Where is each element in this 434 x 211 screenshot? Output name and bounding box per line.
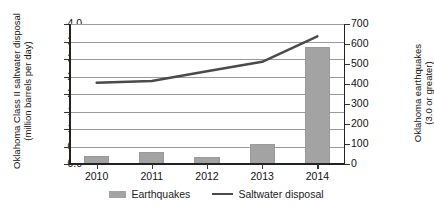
- x-axis-label-2013: 2013: [239, 170, 285, 182]
- x-axis-tick-mark: [152, 164, 153, 169]
- right-axis-tick-mark: [345, 164, 350, 165]
- right-axis-tick-mark: [345, 144, 350, 145]
- saltwater-disposal-line: [97, 36, 318, 83]
- right-axis-tick-label: 700: [351, 17, 381, 29]
- bar-swatch-icon: [109, 191, 126, 198]
- x-axis-label-2012: 2012: [184, 170, 230, 182]
- right-axis-tick-mark: [345, 84, 350, 85]
- right-axis-tick-label: 300: [351, 97, 381, 109]
- x-axis-tick-mark: [317, 164, 318, 169]
- right-axis-title: Oklahoma earthquakes (3.0 or greater): [412, 13, 434, 173]
- left-axis-title-line1: Oklahoma Class II saltwater disposal: [11, 11, 22, 171]
- chart-legend: Earthquakes Saltwater disposal: [0, 188, 433, 200]
- right-axis-tick-label: 0: [351, 157, 381, 169]
- x-axis-tick-mark: [207, 164, 208, 169]
- right-axis-tick-label: 200: [351, 117, 381, 129]
- left-axis-title: Oklahoma Class II saltwater disposal (mi…: [11, 11, 33, 171]
- legend-label-earthquakes: Earthquakes: [131, 188, 190, 200]
- left-axis-line: [69, 24, 71, 164]
- right-axis-tick-label: 500: [351, 57, 381, 69]
- x-axis-label-2011: 2011: [129, 170, 175, 182]
- right-axis-tick-label: 600: [351, 37, 381, 49]
- plot-area: [69, 24, 345, 164]
- right-axis-tick-mark: [345, 24, 350, 25]
- right-axis-tick-mark: [345, 104, 350, 105]
- left-axis-title-line2: (million barrels per day): [22, 11, 33, 171]
- x-axis-label-2010: 2010: [74, 170, 120, 182]
- line-swatch-icon: [212, 193, 233, 196]
- right-axis-tick-mark: [345, 64, 350, 65]
- right-axis-tick-label: 400: [351, 77, 381, 89]
- x-axis-tick-mark: [97, 164, 98, 169]
- legend-label-saltwater-disposal: Saltwater disposal: [238, 188, 323, 200]
- legend-item-saltwater-disposal[interactable]: Saltwater disposal: [212, 188, 323, 200]
- line-series-saltwater-disposal: [69, 24, 345, 164]
- right-axis-line: [344, 24, 346, 164]
- right-axis-tick-label: 100: [351, 137, 381, 149]
- right-axis-tick-mark: [345, 124, 350, 125]
- x-axis-label-2014: 2014: [294, 170, 340, 182]
- right-axis-title-line2: (3.0 or greater): [423, 13, 434, 173]
- right-axis-title-line1: Oklahoma earthquakes: [412, 13, 423, 173]
- x-axis-tick-mark: [262, 164, 263, 169]
- legend-item-earthquakes[interactable]: Earthquakes: [109, 188, 190, 200]
- right-axis-tick-mark: [345, 44, 350, 45]
